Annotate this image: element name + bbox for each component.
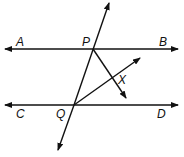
- diagram-canvas: A P B X C Q D: [0, 0, 184, 157]
- label-d: D: [157, 107, 166, 121]
- label-q: Q: [56, 107, 65, 121]
- label-a: A: [15, 35, 24, 49]
- geometry-diagram: A P B X C Q D: [0, 0, 184, 157]
- ray-qx: [74, 58, 140, 105]
- transversal-up: [74, 3, 109, 105]
- label-x: X: [117, 73, 127, 87]
- label-p: P: [82, 35, 90, 49]
- label-c: C: [16, 107, 25, 121]
- label-b: B: [159, 35, 167, 49]
